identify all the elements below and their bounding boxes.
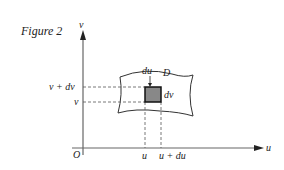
v-axis-label: v xyxy=(79,19,84,30)
v-axis-arrow-icon xyxy=(80,30,86,40)
y-tick-v-plus-dv: v + dv xyxy=(49,81,75,92)
u-axis-label: u xyxy=(266,142,271,153)
dv-label: dv xyxy=(164,89,174,100)
region-label: D xyxy=(162,67,171,78)
du-label: du xyxy=(142,65,152,76)
x-tick-u: u xyxy=(142,150,147,161)
u-axis-arrow-icon xyxy=(254,145,264,151)
uv-plane-diagram: v u O D du dv v + dv v u u + du xyxy=(0,0,284,170)
area-element xyxy=(145,87,161,102)
origin-label: O xyxy=(73,149,80,160)
y-tick-v: v xyxy=(74,96,79,107)
x-tick-u-plus-du: u + du xyxy=(159,150,186,161)
